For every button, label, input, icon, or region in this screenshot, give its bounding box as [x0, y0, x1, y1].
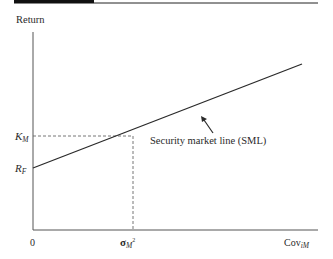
km-tick-label: KM: [14, 130, 29, 144]
sml-diagram: Return Security market line (SML) KM RF …: [0, 0, 333, 259]
sml-arrow-shaft: [204, 120, 213, 133]
header-bar: [14, 0, 94, 4]
x-axis-label: CoviM: [284, 237, 310, 250]
security-market-line: [33, 64, 302, 168]
sml-label: Security market line (SML): [150, 135, 267, 147]
origin-label: 0: [30, 237, 35, 248]
sml-arrow-head-icon: [201, 116, 207, 122]
y-axis-label: Return: [16, 14, 45, 25]
rf-tick-label: RF: [14, 162, 27, 176]
sigma-tick-label: σM2: [120, 236, 135, 250]
